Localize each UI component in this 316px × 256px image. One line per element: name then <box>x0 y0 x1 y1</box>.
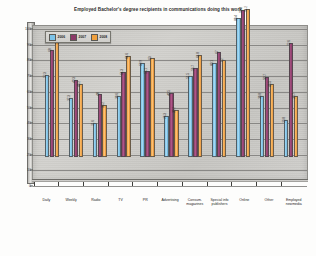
bar-column: 64.6 <box>126 29 130 157</box>
chart-title: Employed Bachelor's degree recipients in… <box>0 7 316 12</box>
bar-group: 88.493.594.2 <box>231 29 255 157</box>
y-tick-label: 20 <box>27 153 31 157</box>
bar: 40.5 <box>169 93 173 157</box>
x-tick <box>281 182 306 187</box>
legend-swatch-icon <box>49 34 56 41</box>
bar: 64.6 <box>126 56 130 157</box>
bar-value-label: 60.1 <box>210 60 214 66</box>
bar: 64.8 <box>198 55 202 157</box>
bar-value-label: 88.4 <box>234 15 238 21</box>
bar-column: 38.7 <box>294 29 298 157</box>
bar-value-label: 64.8 <box>196 52 200 58</box>
y-tick-label: 90 <box>27 43 31 47</box>
y-tick-label: 50 <box>27 106 31 110</box>
x-tick-mark <box>34 182 35 186</box>
x-tick-label: Daily <box>34 198 59 206</box>
bar-value-label: 93.5 <box>239 7 243 13</box>
bar-column: 67 <box>217 29 221 157</box>
bar-value-label: 59.9 <box>139 60 143 66</box>
bar-group: 38.654.364.6 <box>112 29 136 157</box>
x-tick-label: Employed newmedia <box>281 198 306 206</box>
bar-value-label: 37.3 <box>67 96 71 102</box>
bar: 38.6 <box>117 96 121 157</box>
x-tick-mark <box>157 182 158 186</box>
x-tick <box>232 182 257 187</box>
bar: 62 <box>222 60 226 157</box>
bar-column: 60.1 <box>212 29 216 157</box>
bar-value-label: 62 <box>220 58 224 61</box>
bar-column: 23.8 <box>284 29 288 157</box>
bar-value-label: 38.7 <box>292 93 296 99</box>
x-tick <box>158 182 183 187</box>
bar-column: 33.2 <box>102 29 106 157</box>
bar: 60.1 <box>212 63 216 157</box>
bar: 52.3 <box>45 75 49 157</box>
bar-column: 54.3 <box>121 29 125 157</box>
x-axis-labels: DailyWeeklyRadioTVPRAdvertisingConsum. m… <box>34 198 306 206</box>
y-tick-label: 70 <box>27 74 31 78</box>
chart-legend: 200620072008 <box>45 31 111 43</box>
bar-value-label: 64.6 <box>125 53 129 59</box>
bar-column: 78.3 <box>55 29 59 157</box>
x-tick-mark <box>108 182 109 186</box>
bar-group: 60.16762 <box>207 29 231 157</box>
bar-column: 46.5 <box>270 29 274 157</box>
legend-label: 2007 <box>79 35 87 39</box>
bar-value-label: 68 <box>48 49 52 52</box>
bar: 68 <box>50 50 54 157</box>
bar: 93.5 <box>241 10 245 157</box>
bar-column: 62 <box>222 29 226 157</box>
x-tick <box>257 182 282 187</box>
bar: 94.2 <box>246 9 250 157</box>
y-tick-label: 0 <box>29 184 31 188</box>
bar-column: 49.3 <box>74 29 78 157</box>
bar-column: 50.7 <box>265 29 269 157</box>
bar-column: 38.8 <box>260 29 264 157</box>
bar: 67 <box>217 52 221 157</box>
bar: 88.4 <box>236 18 240 157</box>
x-tick-mark <box>281 182 282 186</box>
bar-value-label: 23.8 <box>282 117 286 123</box>
legend-swatch-icon <box>70 34 77 41</box>
bar: 63 <box>150 58 154 157</box>
bar: 49.3 <box>74 80 78 157</box>
bar-value-label: 56.7 <box>191 65 195 71</box>
bar-column: 38.6 <box>117 29 121 157</box>
bar-value-label: 38.6 <box>115 94 119 100</box>
x-tick-label: Radio <box>83 198 108 206</box>
bar-value-label: 26.3 <box>163 113 167 119</box>
x-tick <box>34 182 59 187</box>
bar: 38.7 <box>294 96 298 157</box>
bar-column: 88.4 <box>236 29 240 157</box>
bar-value-label: 52.3 <box>43 72 47 78</box>
bar-column: 94.2 <box>246 29 250 157</box>
bar-value-label: 46.5 <box>268 81 272 87</box>
x-tick-mark <box>83 182 84 186</box>
bar-value-label: 30.2 <box>172 107 176 113</box>
bar-column: 63 <box>150 29 154 157</box>
y-tick-label: 10 <box>27 168 31 172</box>
bar-column: 59.9 <box>140 29 144 157</box>
bar: 55.1 <box>145 71 149 158</box>
x-tick-label: Special info publishers <box>207 198 232 206</box>
bar-series-container: 52.36878.337.349.346.221.64033.238.654.3… <box>40 29 303 157</box>
y-tick-label: 40 <box>27 121 31 125</box>
chart-page: Employed Bachelor's degree recipients in… <box>0 0 316 256</box>
x-tick <box>108 182 133 187</box>
bar-value-label: 40 <box>96 93 100 96</box>
plot-area: 200620072008 0102030405060708090100 52.3… <box>32 25 308 182</box>
bar-group: 38.850.746.5 <box>255 29 279 157</box>
bar-column: 68 <box>50 29 54 157</box>
bar-group: 26.340.530.2 <box>160 29 184 157</box>
bar-group: 23.872.638.7 <box>279 29 303 157</box>
x-tick-mark <box>207 182 208 186</box>
bar-value-label: 67 <box>215 50 219 53</box>
legend-item: 2008 <box>91 34 107 41</box>
bar-value-label: 49.3 <box>72 77 76 83</box>
x-axis-ticks <box>34 182 306 187</box>
bar-value-label: 46.2 <box>77 82 81 88</box>
bar-value-label: 21.6 <box>91 120 95 126</box>
y-tick-label: 100 <box>25 27 31 31</box>
legend-item: 2006 <box>49 34 65 41</box>
y-tick-label: 60 <box>27 90 31 94</box>
